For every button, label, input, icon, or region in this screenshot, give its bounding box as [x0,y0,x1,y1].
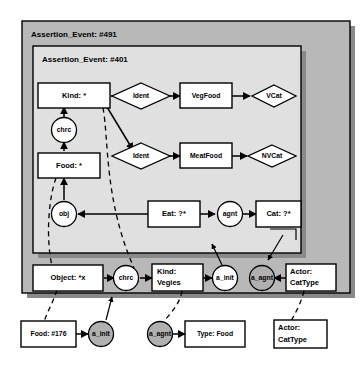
node-food-176-label: Food: #176 [31,330,67,337]
node-a-init-bottom-label: a_init [92,330,110,337]
node-cat[interactable]: Cat: ?* [256,201,301,227]
node-cat-label: Cat: ?* [266,209,290,218]
node-type-food-label: Type: Food [197,330,233,338]
conceptual-graph-diagram: Assertion_Event: #491 Assertion_Event: #… [0,0,361,370]
diagram-canvas: Assertion_Event: #491 Assertion_Event: #… [0,0,361,370]
inner-frame-label: Assertion_Event: #401 [42,55,128,64]
node-type-food[interactable]: Type: Food [185,321,245,347]
node-a-init-outer-label: a_init [216,274,234,281]
node-a-init-bottom[interactable]: a_init [89,322,114,347]
node-actor-cattype-outer[interactable]: Actor: CatType [286,264,336,291]
node-kind-vegies-label-1: Kind: [157,267,176,276]
node-kind-star[interactable]: Kind: * [38,83,110,108]
node-kind-vegies-label-2: Vegies [157,278,181,287]
node-actor-cattype-bottom-label-2: CatType [278,335,307,344]
node-kind-vegies[interactable]: Kind: Vegies [152,264,203,291]
node-obj-label: obj [59,210,69,218]
node-food-star[interactable]: Food: * [38,153,100,178]
node-actor-cattype-outer-label-2: CatType [290,278,319,287]
node-a-agnt-bottom-label: a_agnt [149,330,172,338]
node-a-init-outer[interactable]: a_init [213,266,238,291]
node-chrc-outer[interactable]: chrc [114,266,139,291]
node-obj[interactable]: obj [52,202,77,227]
node-chrc-inner[interactable]: chrc [52,118,77,143]
node-food-star-label: Food: * [56,161,82,170]
node-actor-cattype-bottom-label-1: Actor: [278,323,300,332]
node-meatfood-label: MeatFood [190,152,222,159]
node-chrc-outer-label: chrc [119,274,134,281]
node-object-x[interactable]: Object: *x [33,265,103,291]
node-object-x-label: Object: *x [50,273,86,282]
node-eat[interactable]: Eat: ?* [148,201,200,227]
node-meatfood[interactable]: MeatFood [180,143,232,168]
node-chrc-inner-label: chrc [57,126,72,133]
node-a-agnt-bottom[interactable]: a_agnt [148,322,173,347]
node-a-agnt-outer[interactable]: a_agnt [250,266,275,291]
edge-ainit-bottom-up [106,297,112,320]
node-agnt-label: agnt [223,210,238,218]
node-nvcat-label: NVCat [262,152,283,159]
node-eat-label: Eat: ?* [162,209,186,218]
node-actor-cattype-outer-label-1: Actor: [290,267,312,276]
node-vcat-label: VCat [266,92,282,99]
node-ident-top-label: Ident [133,92,150,99]
outer-frame-label: Assertion_Event: #491 [31,30,117,39]
node-vegfood[interactable]: VegFood [180,83,232,108]
node-kind-star-label: Kind: * [62,91,86,100]
node-food-176[interactable]: Food: #176 [21,321,76,347]
node-agnt[interactable]: agnt [218,202,243,227]
node-actor-cattype-bottom[interactable]: Actor: CatType [274,320,327,348]
node-ident-bottom-label: Ident [133,152,150,159]
node-a-agnt-outer-label: a_agnt [251,274,274,282]
node-vegfood-label: VegFood [192,92,221,100]
